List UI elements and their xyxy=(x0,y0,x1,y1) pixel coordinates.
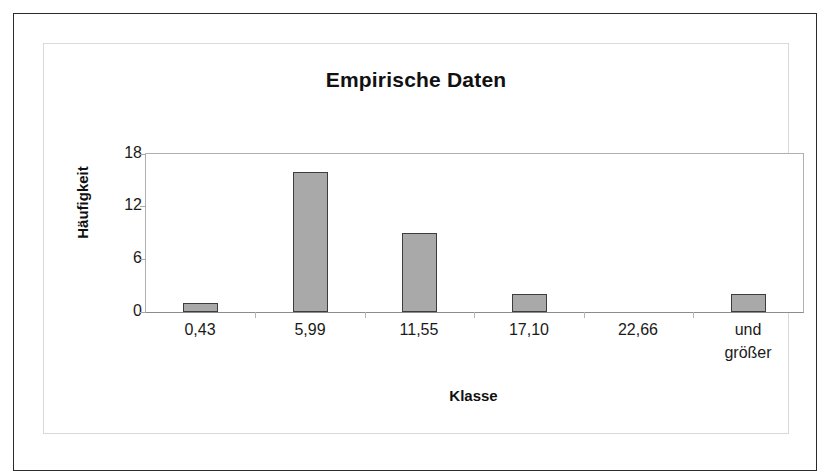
bar-1[interactable] xyxy=(293,172,328,312)
x-axis-title: Klasse xyxy=(145,387,802,404)
x-tick-label-5-line-1: und xyxy=(693,318,803,341)
y-tick-label-6: 6 xyxy=(108,250,142,266)
bar-3[interactable] xyxy=(512,294,547,312)
bar-2[interactable] xyxy=(402,233,437,312)
x-tick-label-2: 11,55 xyxy=(364,318,474,341)
x-tick-label-4: 22,66 xyxy=(583,318,693,341)
x-axis-tick-labels: 0,43 5,99 11,55 17,10 22,66 und größer xyxy=(145,318,802,380)
y-tick-label-0: 0 xyxy=(108,303,142,319)
plot-area xyxy=(145,153,804,313)
x-tick-label-3: 17,10 xyxy=(474,318,584,341)
chart-title: Empirische Daten xyxy=(44,68,788,92)
x-tick-label-0: 0,43 xyxy=(145,318,255,341)
y-tick-label-12: 12 xyxy=(108,197,142,213)
y-tick-label-18: 18 xyxy=(108,145,142,161)
bar-5[interactable] xyxy=(731,294,766,312)
page-border-frame: Empirische Daten Häufigkeit 18 12 6 0 xyxy=(13,13,817,471)
bar-series xyxy=(146,154,803,312)
x-tick-label-5-line-2: größer xyxy=(693,341,803,364)
y-tick-mark-0 xyxy=(140,312,146,313)
bar-0[interactable] xyxy=(183,303,218,312)
chart-container[interactable]: Empirische Daten Häufigkeit 18 12 6 0 xyxy=(43,43,789,434)
y-axis-title: Häufigkeit xyxy=(74,143,91,263)
x-tick-label-1: 5,99 xyxy=(255,318,365,341)
x-tick-label-5: und größer xyxy=(693,318,803,364)
y-axis-tick-labels: 18 12 6 0 xyxy=(106,44,142,435)
